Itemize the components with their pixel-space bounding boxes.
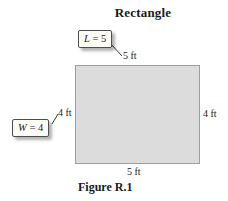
- width-symbol: W: [18, 122, 27, 133]
- left-dimension-label: 4 ft: [58, 107, 72, 118]
- top-dimension-label: 5 ft: [123, 50, 137, 61]
- figure-caption: Figure R.1: [78, 180, 132, 195]
- length-callout: L = 5: [78, 30, 112, 48]
- bottom-dimension-label: 5 ft: [127, 166, 141, 177]
- figure-title: Rectangle: [58, 5, 228, 21]
- right-dimension-label: 4 ft: [203, 108, 217, 119]
- width-value: = 4: [27, 122, 43, 133]
- length-value: = 5: [90, 33, 106, 44]
- geometry-figure: Rectangle L = 5 W = 4 5 ft 4 ft 5 ft 4 f…: [0, 0, 228, 201]
- rectangle-shape: [75, 65, 200, 164]
- width-callout: W = 4: [12, 119, 49, 137]
